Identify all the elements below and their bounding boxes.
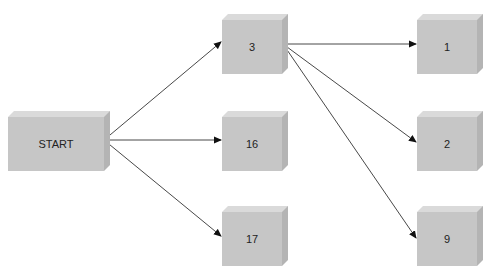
node-n17: 17	[222, 206, 288, 266]
arrow-start-to-3	[104, 42, 221, 140]
node-start: START	[8, 111, 110, 171]
node-label: 3	[222, 20, 282, 74]
node-label: 2	[417, 117, 477, 171]
node-n16: 16	[222, 111, 288, 171]
node-label: 17	[222, 212, 282, 266]
node-n9: 9	[417, 206, 483, 266]
node-side-face	[477, 111, 483, 171]
arrow-3-to-9	[283, 44, 416, 238]
node-side-face	[477, 14, 483, 74]
node-label: 1	[417, 20, 477, 74]
node-n2: 2	[417, 111, 483, 171]
node-side-face	[282, 206, 288, 266]
node-n3: 3	[222, 14, 288, 74]
node-side-face	[104, 111, 110, 171]
node-side-face	[282, 111, 288, 171]
arrow-3-to-2	[283, 44, 416, 142]
node-side-face	[477, 206, 483, 266]
arrow-start-to-17	[104, 140, 221, 236]
node-label: 9	[417, 212, 477, 266]
node-n1: 1	[417, 14, 483, 74]
node-label: START	[8, 117, 104, 171]
node-side-face	[282, 14, 288, 74]
node-label: 16	[222, 117, 282, 171]
